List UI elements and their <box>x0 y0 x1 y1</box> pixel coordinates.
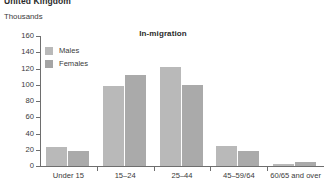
bar-males <box>46 147 67 166</box>
x-category-label: 25–44 <box>171 171 192 180</box>
bar-males <box>273 164 294 166</box>
x-axis-category-labels: Under 1515–2425–4445–59/6460/65 and over <box>40 171 324 185</box>
y-tick-label-140: 140 <box>4 48 34 56</box>
x-category-label: 15–24 <box>115 171 136 180</box>
units-label: Thousands <box>4 12 43 21</box>
y-tick-label-40: 40 <box>4 130 34 138</box>
bar-females <box>68 151 89 166</box>
y-tick-0 <box>36 166 40 167</box>
bar-group <box>97 36 154 166</box>
bar-group <box>267 36 324 166</box>
y-tick-label-60: 60 <box>4 113 34 121</box>
legend-swatch-females-icon <box>45 60 53 68</box>
bar-males <box>103 86 124 166</box>
bar-males <box>160 67 181 166</box>
legend-item-females: Females <box>45 57 88 70</box>
legend-label-males: Males <box>59 46 79 55</box>
y-tick-label-160: 160 <box>4 32 34 40</box>
x-category-label: Under 15 <box>53 171 84 180</box>
y-tick-label-80: 80 <box>4 97 34 105</box>
x-axis-line <box>40 166 324 167</box>
bar-group <box>154 36 211 166</box>
y-tick-label-20: 20 <box>4 146 34 154</box>
legend-label-females: Females <box>59 59 88 68</box>
bar-group <box>210 36 267 166</box>
y-axis-labels: 020406080100120140160 <box>0 36 34 167</box>
y-tick-label-120: 120 <box>4 65 34 73</box>
legend-item-males: Males <box>45 44 88 57</box>
region-title: United Kingdom <box>4 0 71 6</box>
bar-females <box>182 85 203 166</box>
y-tick-label-0: 0 <box>4 162 34 170</box>
bar-females <box>295 162 316 166</box>
bar-males <box>216 146 237 166</box>
chart-legend: Males Females <box>45 44 88 70</box>
chart-screenshot: { "region_title": "United Kingdom", "uni… <box>0 0 326 190</box>
legend-swatch-males-icon <box>45 47 53 55</box>
bar-females <box>238 151 259 166</box>
x-category-label: 45–59/64 <box>223 171 255 180</box>
bar-females <box>125 75 146 166</box>
y-tick-label-100: 100 <box>4 81 34 89</box>
x-category-label: 60/65 and over <box>270 171 321 180</box>
